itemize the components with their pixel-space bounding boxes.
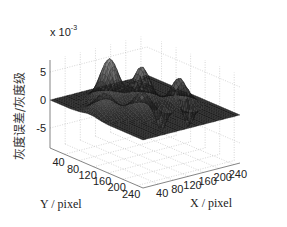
surface-plot: x 10-3 灰度误差/灰度级 Y / pixel X / pixel 4080… [0, 0, 287, 227]
z-exponent-label: x 10-3 [50, 24, 77, 38]
surface-mesh [50, 59, 240, 140]
y-axis-label: Y / pixel [40, 197, 82, 211]
z-tick-labels: 50-5 [36, 66, 46, 134]
x-tick-labels: 4080120160200240 [156, 168, 247, 200]
svg-text:240: 240 [122, 188, 140, 200]
svg-text:240: 240 [229, 168, 247, 180]
z-axis-label: 灰度误差/灰度级 [12, 72, 27, 160]
y-tick-labels: 4080120160200240 [52, 156, 140, 199]
svg-text:5: 5 [40, 66, 46, 78]
svg-text:-5: -5 [36, 122, 46, 134]
svg-text:40: 40 [52, 156, 64, 168]
svg-text:0: 0 [40, 94, 46, 106]
x-axis-label: X / pixel [190, 196, 233, 210]
svg-text:80: 80 [171, 183, 183, 195]
svg-text:80: 80 [67, 163, 79, 175]
svg-text:40: 40 [156, 187, 168, 199]
